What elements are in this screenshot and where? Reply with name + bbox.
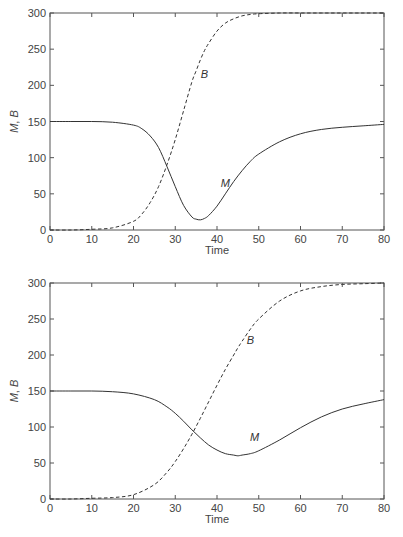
y-tick-label: 250 xyxy=(28,43,46,55)
curve-label-b: B xyxy=(247,334,254,346)
curve-label-b: B xyxy=(201,68,208,80)
y-tick-label: 150 xyxy=(28,385,46,397)
y-tick-label: 200 xyxy=(28,79,46,91)
series-m-line xyxy=(50,121,384,219)
x-tick-label: 80 xyxy=(378,233,390,245)
x-tick-label: 50 xyxy=(253,502,265,514)
curve-label-m: M xyxy=(250,431,260,443)
x-tick-label: 30 xyxy=(169,502,181,514)
x-tick-label: 20 xyxy=(127,502,139,514)
chart-bottom: 01020304050607080050100150200250300TimeM… xyxy=(0,262,403,537)
y-tick-label: 200 xyxy=(28,349,46,361)
y-tick-label: 150 xyxy=(28,116,46,128)
x-tick-label: 20 xyxy=(127,233,139,245)
x-tick-label: 70 xyxy=(336,233,348,245)
y-tick-label: 300 xyxy=(28,7,46,19)
x-tick-label: 50 xyxy=(253,233,265,245)
x-tick-label: 10 xyxy=(86,233,98,245)
x-axis-label: Time xyxy=(205,244,229,256)
y-tick-label: 100 xyxy=(28,152,46,164)
y-tick-label: 50 xyxy=(34,457,46,469)
chart-top: 01020304050607080050100150200250300TimeM… xyxy=(0,0,403,262)
x-tick-label: 30 xyxy=(169,233,181,245)
x-tick-label: 70 xyxy=(336,502,348,514)
y-axis-label: M, B xyxy=(8,380,20,403)
y-tick-label: 100 xyxy=(28,421,46,433)
y-tick-label: 50 xyxy=(34,188,46,200)
x-tick-label: 80 xyxy=(378,502,390,514)
x-tick-label: 60 xyxy=(294,233,306,245)
y-axis-label: M, B xyxy=(8,110,20,133)
x-tick-label: 60 xyxy=(294,502,306,514)
x-axis-label: Time xyxy=(205,513,229,525)
y-tick-label: 0 xyxy=(40,493,46,505)
curve-label-m: M xyxy=(221,177,231,189)
x-tick-label: 0 xyxy=(47,502,53,514)
series-m-line xyxy=(50,391,384,456)
y-tick-label: 250 xyxy=(28,313,46,325)
x-tick-label: 0 xyxy=(47,233,53,245)
y-tick-label: 300 xyxy=(28,277,46,289)
x-tick-label: 10 xyxy=(86,502,98,514)
y-tick-label: 0 xyxy=(40,224,46,236)
